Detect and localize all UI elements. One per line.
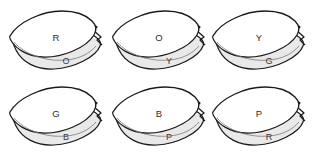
top-label-5: B — [156, 108, 162, 119]
lens-shape-5: B P — [113, 87, 205, 145]
bottom-label-3: G — [265, 56, 272, 66]
lens-shape-1: R O — [10, 11, 102, 69]
bottom-label-1: O — [62, 56, 69, 66]
bottom-label-2: Y — [166, 56, 172, 66]
lens-shape-2: O Y — [113, 11, 205, 69]
top-label-1: R — [53, 32, 60, 43]
shape-cell-5: B P — [107, 78, 211, 155]
top-label-3: Y — [256, 32, 263, 43]
shape-cell-3: Y G — [207, 2, 311, 80]
lens-shape-6: P R — [213, 87, 305, 145]
top-label-2: O — [155, 32, 162, 43]
shape-cell-2: O Y — [107, 2, 211, 80]
diagram-canvas: R O O Y Y G — [0, 0, 313, 155]
bottom-label-5: P — [166, 132, 172, 142]
top-label-4: G — [52, 108, 59, 119]
lens-shape-4: G B — [10, 87, 102, 145]
top-label-6: P — [256, 108, 262, 119]
shape-cell-6: P R — [207, 78, 311, 155]
bottom-label-6: R — [266, 132, 273, 142]
lens-shape-3: Y G — [213, 11, 305, 69]
shape-cell-4: G B — [4, 78, 108, 155]
shape-cell-1: R O — [4, 2, 108, 80]
bottom-label-4: B — [63, 132, 69, 142]
